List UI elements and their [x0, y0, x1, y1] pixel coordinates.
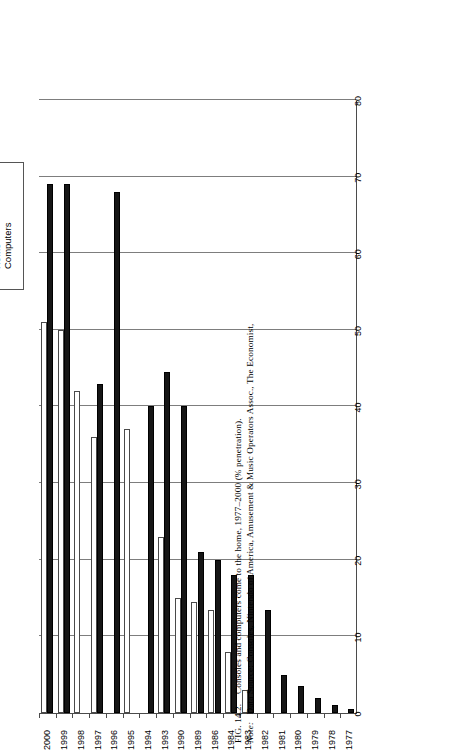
legend-item-home-computers: Home Computers: [0, 171, 13, 281]
category-label-2000: 2000: [42, 730, 52, 754]
category-tick-1999: [56, 713, 57, 718]
category-label-1980: 1980: [293, 730, 303, 754]
gridline-80: [39, 99, 356, 100]
note-text: Data Source: Consoles, Nintendo of Ameri…: [245, 324, 255, 715]
value-tick-40: 40: [353, 395, 363, 421]
category-label-1990: 1990: [176, 730, 186, 754]
category-label-1994: 1994: [143, 730, 153, 754]
category-tick-1990: [173, 713, 174, 718]
value-tick-10: 10: [353, 624, 363, 650]
category-tick-1984: [223, 713, 224, 718]
category-tick-1981: [273, 713, 274, 718]
value-tick-20: 20: [353, 548, 363, 574]
value-tick-80: 80: [353, 88, 363, 114]
figure-number: FIG. 14.2.: [233, 704, 243, 743]
category-label-1993: 1993: [160, 730, 170, 754]
category-tick-1980: [290, 713, 291, 718]
legend-label-home-computers: Home Computers: [0, 223, 13, 269]
category-tick-1995: [123, 713, 124, 718]
category-tick-1979: [307, 713, 308, 718]
category-label-1979: 1979: [310, 730, 320, 754]
category-label-1986: 1986: [210, 730, 220, 754]
category-tick-1994: [139, 713, 140, 718]
category-label-1978: 1978: [327, 730, 337, 754]
category-tick-1996: [106, 713, 107, 718]
bar-chart-figure: Home Video Games Home Computers 01020304…: [31, 80, 431, 726]
category-label-1999: 1999: [59, 730, 69, 754]
category-label-1997: 1997: [93, 730, 103, 754]
category-tick-1993: [156, 713, 157, 718]
figure-caption-line: FIG. 14.2. Consoles and computers come t…: [232, 123, 244, 743]
category-tick-2000: [39, 713, 40, 718]
value-tick-70: 70: [353, 165, 363, 191]
chart-legend: Home Video Games Home Computers: [0, 162, 24, 290]
category-label-1998: 1998: [76, 730, 86, 754]
value-tick-50: 50: [353, 318, 363, 344]
figure-caption-text: Consoles and computers come to the home,…: [233, 418, 243, 694]
value-tick-0: 0: [353, 701, 363, 727]
category-label-1981: 1981: [277, 730, 287, 754]
figure-caption-block: FIG. 14.2. Consoles and computers come t…: [232, 123, 266, 743]
category-label-1977: 1977: [344, 730, 354, 754]
category-label-1989: 1989: [193, 730, 203, 754]
note-label: Note:: [245, 722, 255, 743]
category-tick-1989: [190, 713, 191, 718]
plot-area: [39, 101, 357, 714]
category-axis-ticks: [39, 101, 356, 713]
category-tick-1977: [340, 713, 341, 718]
category-tick-1986: [206, 713, 207, 718]
category-label-1995: 1995: [126, 730, 136, 754]
category-tick-1998: [72, 713, 73, 718]
value-tick-60: 60: [353, 241, 363, 267]
category-tick-1978: [324, 713, 325, 718]
value-tick-30: 30: [353, 471, 363, 497]
figure-note-line: Note: Data Source: Consoles, Nintendo of…: [244, 123, 256, 743]
category-tick-1997: [89, 713, 90, 718]
category-label-1996: 1996: [109, 730, 119, 754]
